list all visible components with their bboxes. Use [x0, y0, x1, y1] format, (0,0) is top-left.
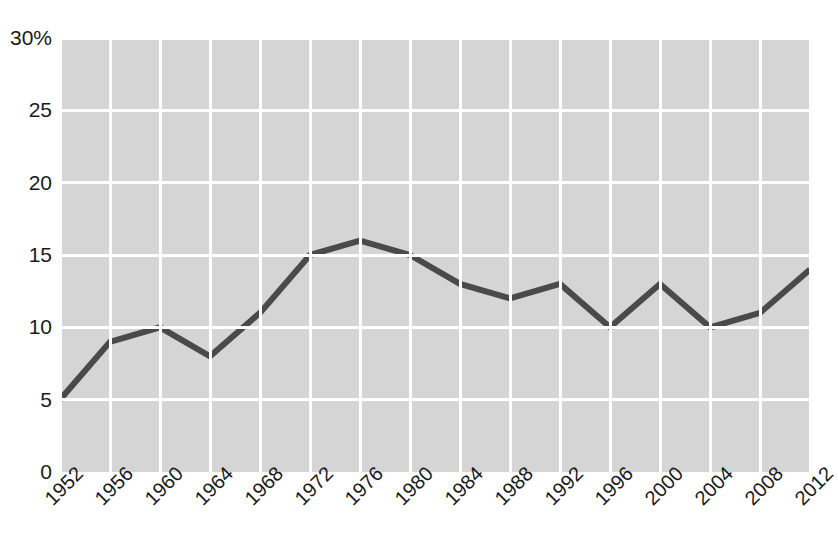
gridline-vertical [309, 38, 312, 472]
gridline-vertical [60, 38, 62, 472]
gridline-horizontal [60, 398, 810, 401]
plot-area [60, 38, 810, 472]
gridline-vertical [809, 38, 811, 472]
y-axis-tick-label: 10 [0, 315, 52, 339]
gridline-vertical [109, 38, 112, 472]
y-axis-tick-label: 5 [0, 388, 52, 412]
y-axis-tick-label: 15 [0, 243, 52, 267]
y-axis-tick-label: 25 [0, 98, 52, 122]
y-axis-tick-label: 30% [0, 26, 52, 50]
gridline-horizontal [60, 109, 810, 112]
gridline-horizontal [60, 38, 810, 40]
y-axis-tick-label: 20 [0, 171, 52, 195]
x-axis: 1952195619601964196819721976198019841988… [60, 472, 810, 547]
gridline-vertical [609, 38, 612, 472]
gridline-vertical [559, 38, 562, 472]
gridline-vertical [709, 38, 712, 472]
gridline-vertical [159, 38, 162, 472]
y-axis-tick-label: 0 [0, 460, 52, 484]
y-axis: 051015202530% [0, 38, 52, 472]
gridline-vertical [509, 38, 512, 472]
gridline-vertical [659, 38, 662, 472]
gridline-vertical [459, 38, 462, 472]
gridline-horizontal [60, 326, 810, 329]
gridline-vertical [409, 38, 412, 472]
gridline-vertical [759, 38, 762, 472]
gridline-vertical [359, 38, 362, 472]
gridline-horizontal [60, 181, 810, 184]
gridline-vertical [209, 38, 212, 472]
gridline-horizontal [60, 254, 810, 257]
gridline-vertical [259, 38, 262, 472]
